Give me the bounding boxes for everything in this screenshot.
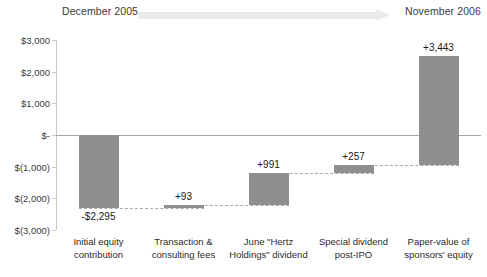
timeline-start-label: December 2005 — [62, 5, 138, 17]
right-arrow-icon — [138, 9, 390, 22]
category-label-line: contribution — [53, 249, 145, 262]
category-label-line: Holdings" dividend — [223, 249, 315, 262]
category-label-1: Initial equitycontribution — [53, 236, 145, 261]
category-label-line: Transaction & — [138, 236, 230, 249]
zero-baseline — [56, 135, 481, 136]
connector-1 — [79, 208, 204, 209]
bar-value-label-1: -$2,295 — [82, 211, 116, 222]
y-axis-tick-label: $- — [42, 130, 50, 141]
y-axis-tick-label: $(3,000) — [15, 225, 50, 236]
category-label-line: June "Hertz — [223, 236, 315, 249]
waterfall-chart: December 2005 November 2006 $3,000$2,000… — [0, 0, 487, 277]
category-label-line: consulting fees — [138, 249, 230, 262]
category-label-line: Paper-value of — [393, 236, 485, 249]
bar-3[interactable] — [249, 173, 289, 204]
bar-2[interactable] — [164, 205, 204, 208]
y-axis-tick-mark — [52, 230, 56, 231]
category-label-line: Initial equity — [53, 236, 145, 249]
x-axis-category-labels: Initial equitycontributionTransaction &c… — [56, 236, 481, 276]
y-axis-tick-mark — [52, 40, 56, 41]
plot-area: $3,000$2,000$1,000$-$(1,000)$(2,000)$(3,… — [56, 40, 481, 230]
category-label-4: Special dividendpost-IPO — [308, 236, 400, 261]
timeline-band: December 2005 November 2006 — [0, 0, 487, 30]
y-axis-tick-mark — [52, 103, 56, 104]
category-label-3: June "HertzHoldings" dividend — [223, 236, 315, 261]
y-axis-tick-mark — [52, 167, 56, 168]
category-label-line: sponsors' equity — [393, 249, 485, 262]
bar-value-label-4: +257 — [342, 151, 365, 162]
y-axis-tick-label: $(1,000) — [15, 161, 50, 172]
arrow-shaft — [138, 12, 376, 19]
y-axis-tick-label: $3,000 — [21, 35, 50, 46]
timeline-end-label: November 2006 — [405, 5, 481, 17]
bar-value-label-5: +3,443 — [423, 42, 454, 53]
category-label-line: post-IPO — [308, 249, 400, 262]
y-axis-tick-mark — [52, 72, 56, 73]
y-axis-tick-label: $1,000 — [21, 98, 50, 109]
y-axis-tick-label: $(2,000) — [15, 193, 50, 204]
bar-value-label-3: +991 — [257, 159, 280, 170]
category-label-line: Special dividend — [308, 236, 400, 249]
category-label-5: Paper-value ofsponsors' equity — [393, 236, 485, 261]
y-axis-tick-mark — [52, 198, 56, 199]
bar-4[interactable] — [334, 165, 374, 173]
bar-5[interactable] — [419, 56, 459, 165]
bar-1[interactable] — [79, 135, 119, 208]
arrow-head — [376, 9, 390, 21]
category-label-2: Transaction &consulting fees — [138, 236, 230, 261]
bar-value-label-2: +93 — [175, 191, 192, 202]
y-axis-tick-label: $2,000 — [21, 66, 50, 77]
